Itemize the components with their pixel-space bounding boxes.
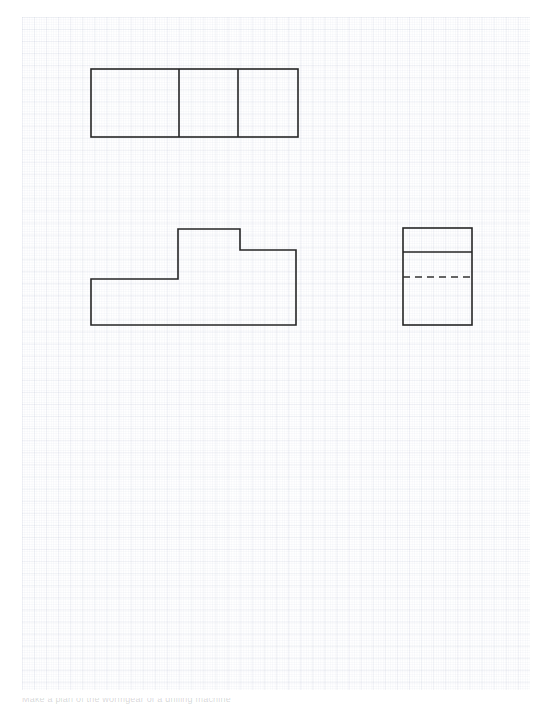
side-view-outline: [403, 228, 472, 325]
caption-text: Make a plan of the wormgear of a drillin…: [22, 698, 552, 705]
worksheet-sheet: Make a plan of the wormgear of a drillin…: [0, 0, 552, 714]
front-view: [91, 229, 296, 325]
side-view: [403, 228, 472, 325]
page-caption: Make a plan of the wormgear of a drillin…: [0, 698, 552, 714]
top-view-outline: [91, 69, 298, 137]
top-view: [91, 69, 298, 137]
front-view-outline: [91, 229, 296, 325]
orthographic-drawing: [0, 0, 552, 714]
